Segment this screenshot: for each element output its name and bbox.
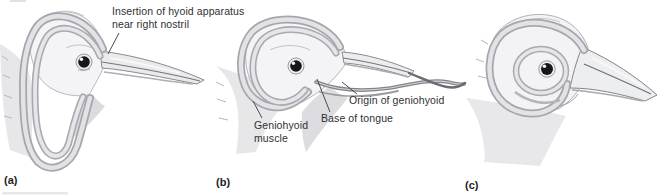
annotation-geniohyoid-line2: muscle <box>254 132 308 145</box>
panel-label-b: (b) <box>216 176 230 188</box>
feather-strokes <box>216 82 228 120</box>
leader-line-insertion <box>108 33 119 54</box>
eye <box>76 54 92 71</box>
figure-canvas: Insertion of hyoid apparatus near right … <box>0 0 660 195</box>
annotation-insertion-of-hyoid: Insertion of hyoid apparatus near right … <box>112 5 244 31</box>
panel-a-bird-head <box>0 11 204 167</box>
crop-smudge-top <box>10 0 26 2</box>
annotation-insertion-line1: Insertion of hyoid apparatus <box>112 5 244 18</box>
eye <box>288 58 304 74</box>
annotation-base-of-tongue: Base of tongue <box>321 112 393 125</box>
panel-c-bird-head <box>466 14 657 166</box>
annotation-geniohyoid-line1: Geniohyoid <box>254 119 308 132</box>
beak <box>570 47 657 101</box>
annotation-origin-of-geniohyoid: Origin of geniohyoid <box>349 94 444 107</box>
panel-label-a: (a) <box>4 174 17 186</box>
annotation-insertion-line2: near right nostril <box>112 18 244 31</box>
annotation-geniohyoid-muscle: Geniohyoid muscle <box>254 119 308 145</box>
eye <box>539 61 555 77</box>
crop-smudge-bottom <box>2 192 68 195</box>
geniohyoid-and-tongue <box>316 73 465 96</box>
panel-label-c: (c) <box>465 179 478 191</box>
hyoid-anatomy-illustration <box>0 0 660 195</box>
